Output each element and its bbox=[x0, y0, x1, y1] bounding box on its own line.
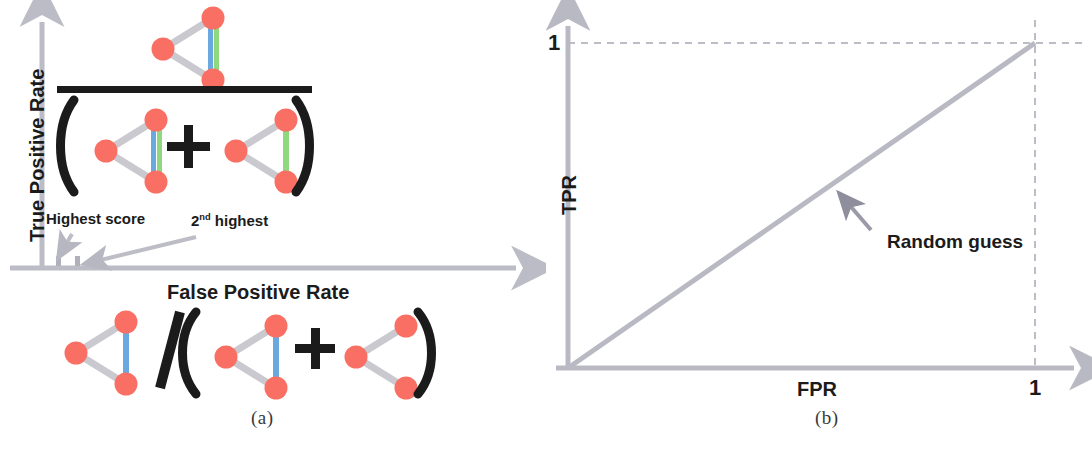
fraction-bar bbox=[57, 86, 312, 93]
right-paren-row2 bbox=[418, 312, 432, 394]
motif-node bbox=[215, 346, 238, 369]
second-highest-arrow bbox=[84, 237, 196, 264]
motif-node bbox=[152, 38, 175, 61]
second-highest-annotation: 2nd highest bbox=[191, 212, 268, 229]
motif-node bbox=[275, 109, 298, 132]
division-slash bbox=[160, 312, 180, 388]
motif-row2-paren-right bbox=[345, 315, 418, 400]
left-paren-row2 bbox=[183, 312, 197, 394]
motif-node bbox=[65, 342, 88, 365]
motif-numerator bbox=[152, 7, 225, 92]
panel-b-y-tick-1: 1 bbox=[548, 30, 560, 56]
motif-row2-paren-left bbox=[215, 315, 288, 400]
left-paren-row1 bbox=[61, 100, 75, 192]
motif-node bbox=[145, 171, 168, 194]
motif-denominator-left bbox=[95, 109, 168, 194]
plus-sign-row2 bbox=[295, 328, 335, 369]
panel-b-x-axis-label: FPR bbox=[797, 378, 837, 401]
panel-a-caption: (a) bbox=[251, 407, 274, 429]
motif-node bbox=[145, 109, 168, 132]
panel-b-caption: (b) bbox=[815, 407, 839, 429]
motif-node bbox=[395, 315, 418, 338]
motif-node bbox=[115, 373, 138, 396]
plus-sign-row1 bbox=[167, 125, 210, 168]
motif-row2-left bbox=[65, 311, 138, 396]
motif-node bbox=[265, 315, 288, 338]
random-guess-arrow bbox=[839, 193, 871, 230]
motif-node bbox=[202, 7, 225, 30]
motif-denominator-right bbox=[225, 109, 298, 194]
highest-score-arrow bbox=[58, 234, 72, 258]
random-guess-line bbox=[568, 43, 1035, 368]
tick-second-highest bbox=[75, 256, 80, 266]
panel-b-y-axis-label: TPR bbox=[558, 175, 581, 215]
motif-node bbox=[95, 140, 118, 163]
motif-node bbox=[345, 346, 368, 369]
panel-a: True Positive Rate False Positive Rate H… bbox=[0, 0, 546, 452]
right-paren-row1 bbox=[296, 100, 310, 192]
motif-node bbox=[115, 311, 138, 334]
motif-node bbox=[265, 377, 288, 400]
second-highest-superscript: nd bbox=[199, 212, 210, 222]
panel-b-x-tick-1: 1 bbox=[1029, 375, 1041, 401]
axis-group-a bbox=[10, 22, 516, 268]
second-highest-suffix: highest bbox=[211, 212, 269, 229]
random-guess-annotation: Random guess bbox=[887, 231, 1023, 253]
panel-a-x-axis-label: False Positive Rate bbox=[167, 281, 349, 304]
panel-b: TPR FPR 1 1 Random guess (b) bbox=[546, 0, 1092, 452]
highest-score-annotation: Highest score bbox=[46, 210, 145, 227]
motif-node bbox=[225, 140, 248, 163]
